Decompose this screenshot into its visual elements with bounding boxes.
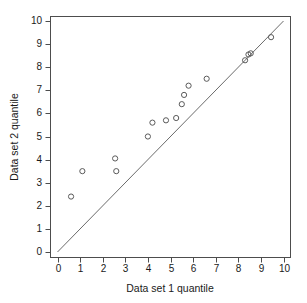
data-point	[68, 194, 73, 199]
x-axis-tick-labels: 012345678910	[56, 263, 291, 274]
data-point	[174, 115, 179, 120]
data-point	[150, 120, 155, 125]
x-tick-label-2: 2	[101, 263, 107, 274]
data-point	[268, 35, 273, 40]
x-tick-label-7: 7	[214, 263, 220, 274]
x-tick-label-10: 10	[279, 263, 291, 274]
x-tick-label-8: 8	[236, 263, 242, 274]
data-point	[163, 118, 168, 123]
qq-plot-figure: 012345678910 012345678910 Data set 1 qua…	[0, 0, 307, 303]
data-point	[186, 83, 191, 88]
x-tick-label-9: 9	[259, 263, 265, 274]
x-tick-label-5: 5	[169, 263, 175, 274]
data-point-group	[68, 35, 273, 200]
y-tick-label-9: 9	[36, 38, 42, 49]
data-point	[113, 156, 118, 161]
y-tick-label-3: 3	[36, 177, 42, 188]
x-tick-label-1: 1	[78, 263, 84, 274]
y-axis-tick-labels: 012345678910	[31, 15, 43, 257]
x-tick-label-3: 3	[123, 263, 129, 274]
y-tick-label-1: 1	[36, 223, 42, 234]
y-tick-label-4: 4	[36, 154, 42, 165]
y-tick-label-7: 7	[36, 84, 42, 95]
x-tick-label-4: 4	[146, 263, 152, 274]
data-point	[80, 169, 85, 174]
y-tick-label-0: 0	[36, 246, 42, 257]
data-point	[145, 134, 150, 139]
data-point	[204, 76, 209, 81]
y-axis-title: Data set 2 quantile	[8, 93, 20, 181]
x-tick-label-6: 6	[191, 263, 197, 274]
y-tick-label-6: 6	[36, 107, 42, 118]
data-point	[181, 92, 186, 97]
y-tick-label-2: 2	[36, 200, 42, 211]
scatter-plot-canvas: 012345678910 012345678910 Data set 1 qua…	[0, 0, 307, 303]
y-axis-ticks	[46, 22, 51, 253]
y-tick-label-5: 5	[36, 131, 42, 142]
x-axis-title: Data set 1 quantile	[126, 282, 214, 294]
x-tick-label-0: 0	[56, 263, 62, 274]
x-axis-ticks	[59, 258, 285, 263]
y-tick-label-8: 8	[36, 61, 42, 72]
data-point	[179, 102, 184, 107]
data-point	[114, 169, 119, 174]
y-tick-label-10: 10	[31, 15, 43, 26]
